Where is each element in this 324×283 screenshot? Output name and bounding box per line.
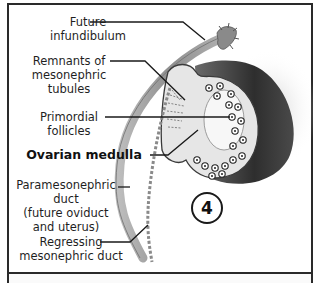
label-future-infundibulum: Future infundibulum: [38, 15, 138, 43]
label-paramesonephric-duct: Paramesonephric duct (future oviduct and…: [14, 178, 118, 234]
label-regressing-mesonephric-duct: Regressing mesonephric duct: [18, 235, 124, 263]
label-ovarian-medulla: Ovarian medulla: [18, 148, 150, 162]
stage-number-badge: 4: [191, 192, 223, 224]
label-primordial-follicles: Primordial follicles: [34, 110, 104, 138]
label-remnants-mesonephric-tubules: Remnants of mesonephric tubules: [30, 54, 108, 96]
